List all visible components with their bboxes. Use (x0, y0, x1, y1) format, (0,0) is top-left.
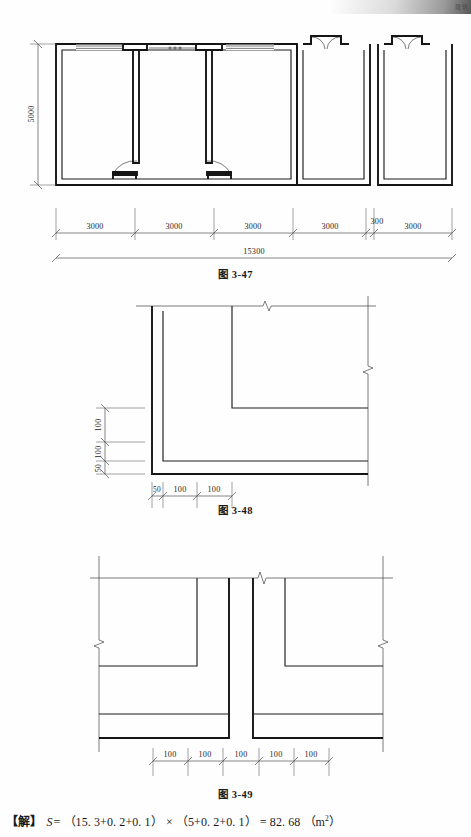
solution-unit-close: ） (329, 815, 341, 829)
hdim-label-3: 3000 (321, 222, 338, 231)
hdim-label-0: 3000 (86, 222, 103, 231)
solution-unit-open: （m (304, 815, 326, 829)
fig48-hdim-label-1: 100 (174, 485, 187, 494)
solution-equals: = (54, 815, 61, 829)
partition-wall-1 (133, 50, 139, 163)
solution-times: × (166, 815, 173, 829)
inner-wall-room-5 (384, 50, 446, 179)
figure-3-47: 5000 3000 3000 3000 3000 300 3 (0, 18, 471, 288)
fig48-hdim-label-0: 50 (153, 485, 161, 494)
outer-wall-room-5 (378, 44, 452, 185)
fig49-dim-label-2: 100 (235, 750, 248, 759)
outer-wall-left-block (56, 44, 297, 185)
foundation-outer-edge (152, 306, 368, 474)
figure-3-48: 100 100 50 50 100 100 图 3-48 (0, 296, 471, 531)
fig48-hdim-label-2: 100 (208, 485, 221, 494)
hdim-label-5: 3000 (404, 222, 421, 231)
figure-3-47-drawing: 5000 3000 3000 3000 3000 300 3 (0, 18, 471, 268)
fig49-left-step-face (99, 578, 197, 666)
fig49-dim-label-0: 100 (164, 750, 177, 759)
outer-wall-room-4 (297, 44, 370, 185)
overall-dim-label: 15300 (243, 247, 264, 256)
entrance-swing-5a (393, 37, 406, 49)
fig49-right-axis-break (378, 636, 388, 752)
wall-inner-face (232, 306, 368, 408)
inner-wall-room-4 (303, 50, 364, 179)
vdim-5000-label: 5000 (27, 105, 36, 122)
solution-result-equals: = (260, 815, 267, 829)
solution-term-2: （5+0. 2+0. 1） (176, 815, 257, 829)
door-2-jamb (208, 173, 231, 179)
top-ref-break-symbol (258, 301, 376, 311)
window-2-glass (226, 45, 274, 51)
fig49-right-step-face (285, 578, 383, 666)
document-page: 建筑 (0, 0, 471, 837)
inner-wall-left-block (62, 50, 291, 179)
figure-3-49-drawing: 100 100 100 100 100 (0, 536, 471, 781)
solution-result: 82. 68 (270, 815, 301, 829)
page-header-mark: 建筑 (331, 0, 471, 14)
entrance-swing-4b (327, 37, 340, 49)
partition-wall-2 (206, 50, 212, 163)
entrance-recess-room-5 (384, 36, 430, 44)
window-1-glass (76, 45, 123, 51)
fig48-vdim-label-0: 100 (94, 419, 103, 432)
entrance-swing-5b (408, 37, 421, 49)
entrance-swing-4a (312, 37, 325, 49)
solution-line: 【解】 S= （15. 3+0. 2+0. 1） × （5+0. 2+0. 1）… (6, 812, 341, 830)
fig48-vdim-label-1: 100 (94, 446, 103, 459)
right-ref-break-symbol (363, 362, 373, 486)
entrance-recess-room-4 (303, 36, 349, 44)
figure-3-49: 100 100 100 100 100 图 3-49 (0, 536, 471, 801)
solution-variable: S (45, 815, 53, 829)
fig49-top-ref-break (252, 572, 393, 584)
fig49-left-axis-break (94, 636, 104, 752)
figure-3-49-caption: 图 3-49 (0, 786, 471, 801)
solution-term-1: （15. 3+0. 2+0. 1） (64, 815, 163, 829)
fig49-dim-label-4: 100 (305, 750, 318, 759)
figure-3-48-drawing: 100 100 50 50 100 100 (0, 296, 471, 511)
foundation-step-line (163, 311, 368, 461)
fig49-dim-label-3: 100 (270, 750, 283, 759)
hdim-label-2: 3000 (244, 222, 261, 231)
hdim-label-1: 3000 (165, 222, 182, 231)
fig49-dim-label-1: 100 (199, 750, 212, 759)
fig48-vdim-label-2: 50 (94, 464, 103, 472)
figure-3-47-caption: 图 3-47 (0, 266, 471, 281)
solution-label: 【解】 (6, 815, 42, 829)
hdim-label-4: 300 (371, 217, 384, 226)
door-1-jamb (113, 173, 136, 179)
figure-3-48-caption: 图 3-48 (0, 502, 471, 517)
